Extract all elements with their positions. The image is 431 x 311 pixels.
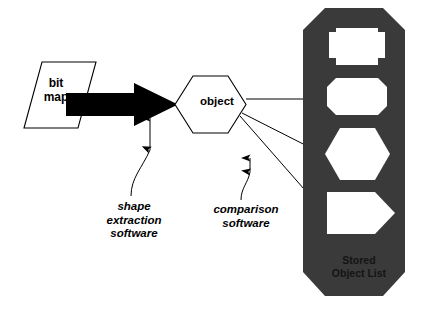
bitmap-node-label: bit map	[26, 76, 86, 104]
object-node-label: object	[186, 95, 248, 109]
stored-shape-1-tab-top	[336, 28, 378, 65]
annotation-shape-extraction-label: shape extraction software	[78, 200, 190, 241]
annotation-comparison-label: comparison software	[188, 203, 304, 230]
leader-comparison	[241, 172, 250, 200]
stored-object-list-label: Stored Object List	[318, 254, 400, 280]
leader-shape-extraction	[131, 150, 150, 196]
stored-shape-octagon[interactable]	[327, 78, 387, 115]
